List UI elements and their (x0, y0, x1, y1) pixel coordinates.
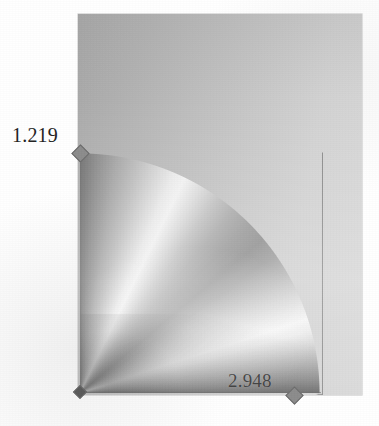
radius-dimension-label: 1.219 (12, 125, 58, 145)
sector-bottom-edge (80, 392, 321, 393)
figure-canvas: 1.219 2.948 (0, 0, 379, 426)
sector-group (78, 14, 362, 395)
sector-left-edge (80, 152, 81, 393)
width-dimension-label: 2.948 (228, 371, 272, 390)
plot-rectangle (78, 14, 362, 395)
radial-fan-shading (80, 152, 321, 393)
